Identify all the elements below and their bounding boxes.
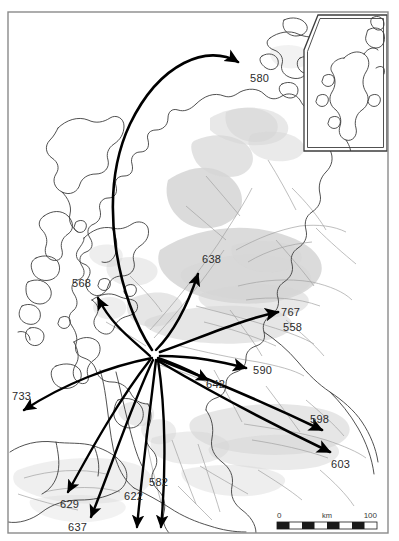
flow-label-598: 598: [310, 413, 329, 425]
flow-label-568: 568: [72, 277, 91, 289]
flow-label-638: 638: [202, 253, 221, 265]
map-figure: 580 568 638 767 558 590 642 598 603 733 …: [0, 0, 399, 541]
flow-label-558: 558: [283, 321, 302, 333]
scale-max-label: 100: [364, 511, 378, 520]
scale-unit-label: km: [322, 511, 332, 520]
flow-label-733: 733: [12, 390, 31, 402]
map-canvas: 580 568 638 767 558 590 642 598 603 733 …: [0, 0, 399, 541]
scale-min-label: 0: [277, 511, 282, 520]
flow-label-580: 580: [250, 72, 269, 84]
flow-label-590: 590: [253, 364, 272, 376]
flow-label-637: 637: [68, 521, 87, 533]
flow-label-622: 622: [124, 490, 143, 502]
flow-label-582: 582: [149, 476, 168, 488]
flow-label-603: 603: [331, 458, 350, 470]
shetland-inset: [304, 15, 387, 158]
flow-label-767: 767: [281, 306, 300, 318]
flow-label-642: 642: [206, 378, 225, 390]
flow-label-629: 629: [60, 498, 79, 510]
